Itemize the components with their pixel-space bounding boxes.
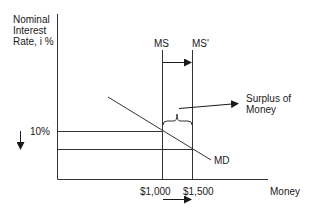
surplus-annotation: Surplus of Money — [246, 93, 291, 115]
surplus-pointer-arrow — [179, 104, 238, 109]
annotation-line-1: Surplus of — [246, 93, 291, 104]
y-label-line-3: Rate, i % — [13, 36, 54, 47]
y-label-line-1: Nominal — [13, 14, 54, 25]
ms-label: MS — [154, 38, 169, 49]
ms-prime-label: MS' — [192, 38, 209, 49]
x-axis-label: Money — [270, 186, 300, 197]
annotation-line-2: Money — [246, 104, 291, 115]
money-tick-1500: $1,500 — [183, 186, 214, 197]
rate-10-label: 10% — [30, 126, 50, 137]
md-curve — [108, 97, 211, 160]
surplus-brace — [163, 114, 192, 125]
md-label: MD — [214, 155, 230, 166]
y-label-line-2: Interest — [13, 25, 54, 36]
money-tick-1000: $1,000 — [140, 186, 171, 197]
y-axis-label: Nominal Interest Rate, i % — [13, 14, 54, 47]
